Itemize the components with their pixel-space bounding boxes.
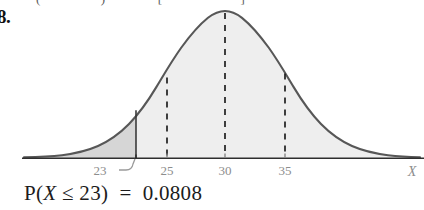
- formula-suffix: ): [101, 181, 108, 205]
- formula-bound: 23: [79, 181, 101, 205]
- x-tick-label-35: 35: [279, 163, 292, 178]
- normal-distribution-chart: 23 25 30 35 X: [0, 0, 424, 210]
- distribution-body-fill: [24, 11, 420, 158]
- x-tick-label-25: 25: [161, 163, 174, 178]
- formula-prefix: P(: [24, 181, 43, 205]
- x-tick-label-30: 30: [219, 163, 232, 178]
- formula-equals: =: [119, 181, 131, 205]
- figure-page: ()[] 8.: [0, 0, 424, 210]
- formula-relation: ≤: [56, 181, 79, 205]
- formula-value: 0.0808: [143, 181, 203, 205]
- formula-variable: X: [43, 181, 56, 205]
- x-tick-label-23: 23: [94, 163, 107, 178]
- leader-line-23: [119, 159, 135, 170]
- probability-formula: P(X ≤ 23) = 0.0808: [24, 181, 202, 206]
- x-axis-variable-label: X: [407, 164, 417, 179]
